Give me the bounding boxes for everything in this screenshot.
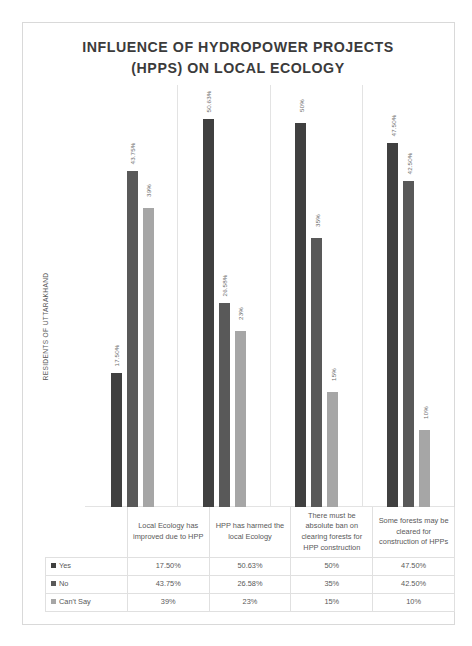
table-cell: 17.50%: [127, 558, 209, 576]
legend-color-marker: [421, 495, 429, 503]
table-row: No 43.75% 26.58% 35% 42.50%: [46, 576, 455, 594]
chart-frame: INFLUENCE OF HYDROPOWER PROJECTS (HPPS) …: [22, 22, 455, 625]
bar-value-label: 17.50%: [113, 344, 120, 366]
bar-group: 47.50%42.50%10%: [362, 85, 454, 507]
legend-swatch-icon: [51, 599, 56, 604]
bar-column[interactable]: 10%: [419, 85, 430, 507]
bar-column[interactable]: 26.58%: [219, 85, 230, 507]
chart-title-line-1: INFLUENCE OF HYDROPOWER PROJECTS: [53, 37, 423, 58]
bar-column[interactable]: 23%: [235, 85, 246, 507]
legend-color-marker: [313, 495, 321, 503]
bar-value-label: 15%: [329, 368, 336, 381]
legend-color-marker: [128, 495, 136, 503]
legend-label: Yes: [59, 561, 71, 570]
bar-value-label: 47.50%: [389, 114, 396, 136]
table-cell: 47.50%: [373, 558, 455, 576]
bar-column[interactable]: 39%: [143, 85, 154, 507]
legend-color-marker: [236, 495, 244, 503]
bar-value-label: 50%: [297, 99, 304, 112]
bar-column[interactable]: 50%: [295, 85, 306, 507]
bar[interactable]: [295, 123, 306, 507]
plot-area: 17.50%43.75%39%50.63%26.58%23%50%35%15%4…: [85, 85, 454, 507]
legend-label: Can't Say: [59, 597, 91, 606]
legend-item-yes: Yes: [46, 558, 128, 576]
table-row: Yes 17.50% 50.63% 50% 47.50%: [46, 558, 455, 576]
legend-color-marker: [405, 495, 413, 503]
bar-column[interactable]: 15%: [327, 85, 338, 507]
legend-color-marker: [329, 495, 337, 503]
bar-value-label: 50.63%: [205, 90, 212, 112]
legend-color-marker: [297, 495, 305, 503]
bar-value-label: 35%: [313, 215, 320, 228]
legend-color-marker: [112, 495, 120, 503]
bar[interactable]: [403, 181, 414, 507]
table-cell: 15%: [291, 594, 373, 612]
table-header-row: Local Ecology has improved due to HPP HP…: [46, 507, 455, 558]
bar[interactable]: [327, 392, 338, 507]
bar[interactable]: [203, 119, 214, 507]
bar-value-label: 23%: [237, 307, 244, 320]
table-header-cell: Some forests may be cleared for construc…: [373, 507, 455, 558]
bar-group: 50.63%26.58%23%: [177, 85, 269, 507]
bar-group: 50%35%15%: [270, 85, 362, 507]
table-cell: 50%: [291, 558, 373, 576]
bar-column[interactable]: 50.63%: [203, 85, 214, 507]
chart-title-line-2: (HPPS) ON LOCAL ECOLOGY: [53, 58, 423, 79]
bar-column[interactable]: 17.50%: [111, 85, 122, 507]
bar-column[interactable]: 42.50%: [403, 85, 414, 507]
table-cell: 23%: [209, 594, 291, 612]
table-cell: 42.50%: [373, 576, 455, 594]
table-row: Can't Say 39% 23% 15% 10%: [46, 594, 455, 612]
legend-item-no: No: [46, 576, 128, 594]
table-cell: 26.58%: [209, 576, 291, 594]
bar[interactable]: [143, 208, 154, 507]
y-axis-title: RESIDENTS OF UTTARAKHAND: [42, 242, 49, 412]
bar-column[interactable]: 35%: [311, 85, 322, 507]
table-header-cell: HPP has harmed the local Ecology: [209, 507, 291, 558]
legend-item-cant-say: Can't Say: [46, 594, 128, 612]
legend-color-marker: [144, 495, 152, 503]
bar[interactable]: [387, 143, 398, 507]
bar-column[interactable]: 43.75%: [127, 85, 138, 507]
table-cell: 35%: [291, 576, 373, 594]
legend-color-marker: [204, 495, 212, 503]
chart-title: INFLUENCE OF HYDROPOWER PROJECTS (HPPS) …: [53, 37, 423, 78]
bar-value-label: 10%: [421, 406, 428, 419]
bar[interactable]: [111, 373, 122, 507]
legend-color-marker: [389, 495, 397, 503]
bar-value-label: 42.50%: [405, 152, 412, 174]
bar-value-label: 43.75%: [129, 143, 136, 165]
legend-color-marker: [220, 495, 228, 503]
table-cell: 10%: [373, 594, 455, 612]
legend-swatch-icon: [51, 581, 56, 586]
bar-group: 17.50%43.75%39%: [85, 85, 177, 507]
table-corner-cell: [46, 507, 128, 558]
table-header-cell: There must be absolute ban on clearing f…: [291, 507, 373, 558]
bar-value-label: 26.58%: [221, 275, 228, 297]
table-header-cell: Local Ecology has improved due to HPP: [127, 507, 209, 558]
bar[interactable]: [127, 171, 138, 507]
bar-column[interactable]: 47.50%: [387, 85, 398, 507]
bar[interactable]: [235, 331, 246, 507]
table-cell: 50.63%: [209, 558, 291, 576]
bar[interactable]: [311, 238, 322, 507]
legend-swatch-icon: [51, 563, 56, 568]
legend-marker-strip: [85, 495, 454, 504]
table-cell: 43.75%: [127, 576, 209, 594]
data-table: Local Ecology has improved due to HPP HP…: [45, 507, 455, 612]
bar[interactable]: [219, 303, 230, 507]
bar-value-label: 39%: [145, 184, 152, 197]
table-cell: 39%: [127, 594, 209, 612]
legend-label: No: [59, 579, 68, 588]
